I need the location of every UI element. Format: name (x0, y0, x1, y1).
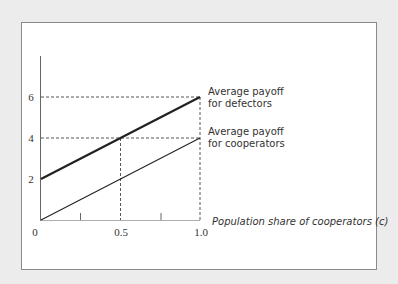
y-tick-label-4: 4 (28, 132, 34, 144)
payoff-chart: 6 4 2 0 0.5 1.0 Population share of coop… (0, 0, 398, 284)
y-tick-label-6: 6 (28, 91, 34, 103)
cooperators-annotation-line1: Average payoff (208, 126, 285, 137)
x-tick-label-10: 1.0 (194, 226, 208, 238)
defectors-annotation-line1: Average payoff (208, 86, 285, 97)
x-tick-label-05: 0.5 (114, 226, 128, 238)
x-tick-label-0: 0 (32, 226, 38, 238)
y-tick-label-2: 2 (28, 173, 34, 185)
defectors-annotation-line2: for defectors (208, 98, 272, 109)
x-axis-title: Population share of cooperators (c) (212, 216, 388, 227)
cooperators-annotation-line2: for cooperators (208, 138, 285, 149)
